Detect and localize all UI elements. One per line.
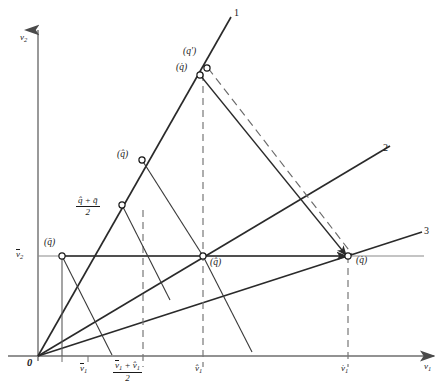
chord-qprime-to-qdot-right — [208, 68, 352, 254]
point-label-qdot-upper: (q̇) — [176, 63, 187, 73]
tick-label-midpoint: v1 + v̂1 2 — [113, 361, 142, 383]
marker-qdot-right — [345, 253, 351, 259]
point-label-qhat-mid: (q̂) — [210, 258, 221, 268]
point-label-qhat-upper: (q̂) — [117, 150, 128, 160]
ray-1-label: 1 — [234, 8, 239, 18]
marker-qbar — [59, 253, 65, 259]
point-label-qbar: (q̄) — [44, 238, 55, 248]
marker-qhat-mid — [200, 253, 206, 259]
origin-label: 0 — [27, 358, 32, 369]
chord-qmid-down-right — [122, 205, 170, 300]
point-label-qmid: q̂ + q̄ 2 — [76, 196, 100, 217]
connector-qmid-qhatmid — [122, 205, 203, 256]
thin-crosshatch — [143, 210, 203, 256]
ray-1 — [38, 17, 231, 356]
ray-3-label: 3 — [424, 226, 429, 236]
axis-label-v1: v1 — [424, 362, 431, 372]
ray-3 — [38, 232, 422, 356]
tick-label-vhat1: v̂1 — [195, 364, 202, 374]
tick-label-vbar2: v2 — [16, 250, 23, 260]
tick-label-vbar1: v1 — [80, 364, 87, 374]
axis-label-v2: v2 — [20, 33, 27, 43]
x-tick-marks — [62, 356, 88, 362]
ray-2 — [38, 146, 390, 356]
marker-qmid — [119, 202, 125, 208]
tick-label-vdot1: v̇1 — [341, 364, 348, 374]
chord-qhatmid-down-right — [203, 256, 252, 352]
point-label-qdot-right: (q̇) — [356, 256, 367, 266]
chord-qhat-upper-to-qhat-mid — [142, 160, 203, 256]
figure-canvas: v2 v1 0 1 2 3 v2 v1 v1 + v̂1 2 v̂1 v̇1 (… — [0, 0, 448, 385]
marker-qhat-upper — [139, 157, 145, 163]
chord-qdot-upper-to-qdot-right — [200, 75, 346, 255]
ray-2-label: 2 — [383, 143, 388, 153]
point-label-qprime: (q′) — [183, 47, 196, 57]
point-markers — [59, 65, 351, 259]
marker-qprime — [204, 65, 210, 71]
marker-qdot-upper — [197, 72, 203, 78]
diagram-svg — [0, 0, 448, 385]
